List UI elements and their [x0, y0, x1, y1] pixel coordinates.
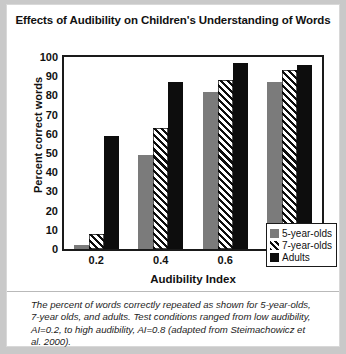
legend-item: 5-year-olds [270, 227, 332, 239]
bar-chart: Percent correct words 010203040506070809… [7, 49, 339, 287]
legend-label: 7-year-olds [282, 240, 332, 251]
legend-label: 5-year-olds [282, 228, 332, 239]
caption-block: The percent of words correctly repeated … [7, 291, 339, 349]
y-axis-tick: 40 [46, 166, 64, 178]
y-axis-tick: 30 [46, 185, 64, 197]
bar-group [193, 57, 258, 249]
bar-7-year-olds [89, 234, 104, 249]
y-axis-tick: 80 [46, 89, 64, 101]
legend-item: Adults [270, 251, 332, 263]
chart-legend: 5-year-olds7-year-oldsAdults [266, 223, 337, 267]
x-axis-tick: 0.2 [89, 254, 104, 266]
y-axis-tick: 60 [46, 128, 64, 140]
bar-group [258, 57, 323, 249]
figure-caption: The percent of words correctly repeated … [7, 292, 339, 349]
bar-adults [104, 136, 119, 249]
bar-adults [233, 63, 248, 249]
figure-page: Effects of Audibility on Children's Unde… [7, 5, 339, 346]
y-axis-tick: 20 [46, 205, 64, 217]
legend-swatch-icon [270, 229, 279, 238]
y-axis-tick: 70 [46, 109, 64, 121]
x-axis-tick: 0.6 [218, 254, 233, 266]
bar-group [64, 57, 129, 249]
y-axis-label: Percent correct words [32, 55, 44, 215]
y-axis-tick: 100 [40, 51, 64, 63]
legend-swatch-icon [270, 241, 279, 250]
bar-5-year-olds [138, 155, 153, 249]
bar-group [129, 57, 194, 249]
x-axis-label: Audibility Index [62, 273, 324, 285]
bar-5-year-olds [203, 92, 218, 249]
legend-swatch-icon [270, 253, 279, 262]
y-axis-tick: 10 [46, 224, 64, 236]
legend-item: 7-year-olds [270, 239, 332, 251]
y-axis-tick: 0 [52, 243, 64, 255]
bar-7-year-olds [153, 128, 168, 249]
bar-7-year-olds [218, 80, 233, 249]
bar-5-year-olds [74, 245, 89, 249]
plot-area: 01020304050607080901000.20.40.60.8 [62, 55, 324, 251]
y-axis-tick: 50 [46, 147, 64, 159]
chart-title: Effects of Audibility on Children's Unde… [7, 13, 339, 27]
plot-inner: 01020304050607080901000.20.40.60.8 [64, 57, 322, 249]
bar-adults [297, 65, 312, 249]
bar-adults [168, 82, 183, 249]
legend-label: Adults [282, 252, 310, 263]
x-axis-tick: 0.4 [153, 254, 168, 266]
y-axis-tick: 90 [46, 70, 64, 82]
